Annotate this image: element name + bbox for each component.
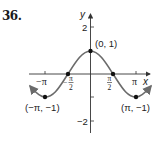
curve-left-arrow	[30, 86, 35, 92]
point-label-left: (−π, −1)	[25, 102, 60, 113]
x-tick-label-neg-half-pi: − π 2	[63, 74, 74, 92]
point-neg-pi	[43, 95, 47, 99]
point-zero-one	[88, 49, 92, 53]
svg-text:−: −	[63, 78, 67, 87]
point-pi	[134, 95, 138, 99]
x-tick-label-neg-pi: −π	[36, 76, 47, 87]
svg-text:2: 2	[69, 83, 73, 92]
y-tick-label-neg2: −2	[77, 116, 88, 127]
y-tick-label-2: 2	[82, 22, 87, 33]
x-tick-label-pi: π	[132, 76, 137, 87]
point-label-right: (π, −1)	[121, 102, 150, 113]
y-axis-label: y	[79, 9, 86, 20]
x-tick-label-half-pi: π 2	[107, 74, 112, 92]
x-axis-label: x	[142, 76, 149, 87]
point-label-top: (0, 1)	[95, 38, 117, 49]
cosine-graph: y x 2 −2 −π π − π 2 π 2 (0, 1) (−π, −1) …	[0, 0, 159, 141]
point-half-pi	[111, 72, 115, 76]
svg-text:2: 2	[108, 83, 112, 92]
